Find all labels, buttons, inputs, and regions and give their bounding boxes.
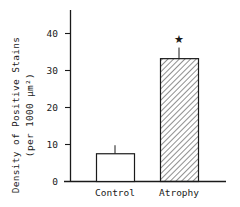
y-axis-label: Density of Positive Stains — [10, 37, 21, 194]
y-axis-units: (per 1000 µm²) — [24, 73, 35, 157]
chart: Density of Positive Stains (per 1000 µm²… — [0, 0, 240, 207]
y-tick-label: 30 — [47, 65, 59, 76]
x-tick-label: Atrophy — [159, 187, 199, 198]
x-tick-labels: ControlAtrophy — [95, 187, 199, 198]
y-ticks: 010203040 — [47, 28, 71, 187]
x-tick-label: Control — [95, 187, 135, 198]
y-tick-label: 20 — [47, 102, 59, 113]
y-axis-title: Density of Positive Stains (per 1000 µm²… — [10, 37, 35, 194]
bar-atrophy — [161, 48, 199, 182]
y-tick-label: 10 — [47, 139, 59, 150]
y-tick-label: 40 — [47, 28, 59, 39]
y-tick-label: 0 — [52, 176, 58, 187]
bar-rect — [97, 154, 135, 182]
bar-control — [97, 145, 135, 181]
bar-rect — [161, 59, 199, 182]
bars: ★ — [97, 33, 199, 182]
significance-star-icon: ★ — [174, 33, 184, 46]
